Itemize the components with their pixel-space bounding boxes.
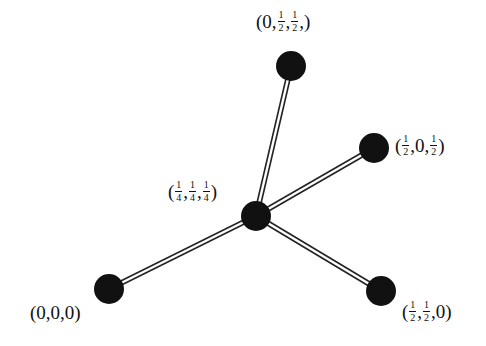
fraction: 14 xyxy=(203,180,210,203)
label-text: ( xyxy=(395,136,401,155)
bond-line-right xyxy=(257,150,375,218)
atom-bottom-right xyxy=(366,276,396,306)
label-text: , xyxy=(183,182,188,201)
bond-line-bottom-left xyxy=(110,218,257,291)
label-text: ) xyxy=(438,136,444,155)
bond-line-bottom-right xyxy=(257,214,382,289)
fraction: 14 xyxy=(189,180,196,203)
label-bottom-left-atom: (0,0,0) xyxy=(30,303,81,322)
tetrahedral-structure-diagram xyxy=(0,0,486,346)
label-text: (0,0,0) xyxy=(30,303,81,322)
label-text: , xyxy=(417,302,422,321)
bond-line-bottom-left xyxy=(108,214,255,287)
atom-top xyxy=(276,51,306,81)
label-text: ,0, xyxy=(410,136,429,155)
fraction: 12 xyxy=(423,300,430,323)
label-top-atom: (0,12,12,) xyxy=(256,10,310,33)
atom-bottom-left xyxy=(94,274,124,304)
atoms xyxy=(94,51,396,306)
label-text: ( xyxy=(402,302,408,321)
fraction: 14 xyxy=(175,180,182,203)
label-text: ,) xyxy=(299,12,310,31)
fraction: 12 xyxy=(409,300,416,323)
label-text: , xyxy=(286,12,291,31)
atom-center xyxy=(241,201,271,231)
bond-line-top xyxy=(258,66,293,216)
atom-right xyxy=(359,133,389,163)
label-center-atom: (14,14,14) xyxy=(168,180,217,203)
bonds xyxy=(108,66,382,293)
label-bottom-right-atom: (12,12,0) xyxy=(402,300,452,323)
bond-line-bottom-right xyxy=(255,218,380,293)
fraction: 12 xyxy=(278,10,285,33)
fraction: 12 xyxy=(430,134,437,157)
label-right-atom: (12,0,12) xyxy=(395,134,445,157)
label-text: ,0) xyxy=(431,302,452,321)
label-text: (0, xyxy=(256,12,277,31)
label-text: ( xyxy=(168,182,174,201)
label-text: , xyxy=(197,182,202,201)
fraction: 12 xyxy=(291,10,298,33)
fraction: 12 xyxy=(402,134,409,157)
label-text: ) xyxy=(211,182,217,201)
bond-line-top xyxy=(254,66,289,216)
